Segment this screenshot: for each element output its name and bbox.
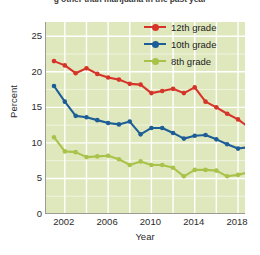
data-point (149, 91, 154, 96)
data-point (117, 157, 122, 162)
data-point (214, 105, 219, 110)
y-tick-label: 20 (18, 67, 42, 77)
data-point (52, 84, 57, 89)
data-point (171, 131, 176, 136)
data-point (73, 71, 78, 76)
data-point (127, 119, 132, 124)
x-tick-label: 2018 (220, 216, 254, 227)
y-tick-label: 5 (18, 173, 42, 183)
data-point (138, 82, 143, 87)
legend-item: 12th grade (144, 20, 216, 34)
chart-figure: g other than marijuana in the past year … (0, 0, 260, 255)
legend-label: 10th grade (171, 39, 216, 50)
data-point (73, 150, 78, 155)
x-tick-label: 2006 (90, 216, 124, 227)
data-point (127, 163, 132, 168)
data-point (52, 135, 57, 140)
data-point (236, 117, 241, 122)
data-point (95, 72, 100, 77)
y-axis-label: Percent (8, 67, 19, 137)
data-point (192, 85, 197, 90)
data-point (106, 153, 111, 158)
data-point (203, 168, 208, 173)
legend-swatch-icon (144, 56, 166, 66)
data-point (95, 118, 100, 123)
x-axis-ticks: 20022006201020142018 (0, 216, 260, 230)
data-point (106, 75, 111, 80)
data-point (225, 111, 230, 116)
data-point (203, 133, 208, 138)
data-point (117, 122, 122, 127)
data-point (192, 133, 197, 138)
legend-label: 12th grade (171, 22, 216, 33)
data-point (149, 163, 154, 168)
y-tick-label: 15 (18, 102, 42, 112)
data-point (106, 121, 111, 126)
legend-swatch-icon (144, 22, 166, 32)
data-point (84, 155, 89, 160)
data-point (236, 173, 241, 178)
x-axis-label: Year (45, 231, 245, 242)
data-point (138, 132, 143, 137)
data-point (63, 63, 68, 68)
legend-swatch-icon (144, 39, 166, 49)
data-point (236, 146, 241, 151)
y-tick-label: 10 (18, 138, 42, 148)
data-point (84, 66, 89, 71)
x-tick-label: 2010 (133, 216, 167, 227)
x-tick-label: 2014 (177, 216, 211, 227)
x-tick-label: 2002 (47, 216, 81, 227)
data-point (182, 91, 187, 96)
legend-item: 10th grade (144, 37, 216, 51)
data-point (182, 174, 187, 179)
data-point (160, 163, 165, 168)
data-point (117, 77, 122, 82)
data-point (52, 59, 57, 64)
data-point (171, 165, 176, 170)
data-point (149, 126, 154, 131)
data-point (171, 87, 176, 92)
data-point (160, 89, 165, 94)
data-point (138, 159, 143, 164)
data-point (192, 168, 197, 173)
data-point (84, 115, 89, 120)
legend-item: 8th grade (144, 54, 216, 68)
data-point (214, 168, 219, 173)
data-point (203, 99, 208, 104)
data-point (95, 154, 100, 159)
headline-text: g other than marijuana in the past year (54, 0, 206, 4)
data-point (214, 137, 219, 142)
data-point (182, 136, 187, 141)
legend-label: 8th grade (171, 56, 211, 67)
data-point (225, 142, 230, 147)
data-point (160, 126, 165, 131)
data-point (127, 82, 132, 87)
data-point (63, 99, 68, 104)
chart-legend: 12th grade10th grade8th grade (144, 20, 216, 68)
data-point (225, 174, 230, 179)
y-tick-label: 25 (18, 31, 42, 41)
data-point (63, 149, 68, 154)
data-point (73, 114, 78, 119)
